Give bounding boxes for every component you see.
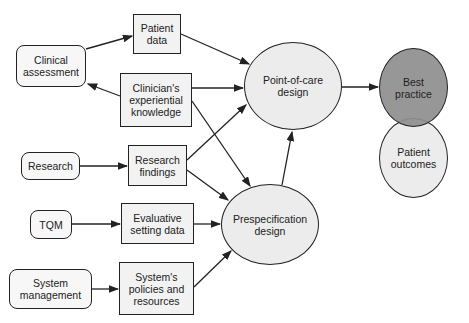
- edge-prespec-to-poc: [282, 132, 292, 185]
- patient-data-node: Patient data: [133, 14, 181, 54]
- best-practice-node: Best practice: [379, 48, 448, 127]
- point-of-care-design-node: Point-of-care design: [244, 42, 342, 130]
- tqm-node: TQM: [30, 210, 72, 239]
- edge-knowledge-to-prespec: [192, 101, 250, 186]
- edge-patient-data-to-poc: [181, 34, 249, 64]
- evaluative-data-node: Evaluative setting data: [121, 203, 194, 244]
- edge-findings-to-prespec: [187, 170, 228, 200]
- diagram-canvas: Clinical assessment Research TQM System …: [0, 0, 469, 323]
- prespecification-design-node: Prespecification design: [221, 184, 319, 265]
- clinical-assessment-node: Clinical assessment: [16, 45, 86, 87]
- edge-knowledge-to-clinical: [88, 84, 120, 96]
- patient-outcomes-node: Patient outcomes: [379, 118, 448, 198]
- edge-findings-to-poc: [187, 105, 246, 160]
- research-findings-node: Research findings: [128, 145, 187, 186]
- system-management-node: System management: [9, 269, 92, 309]
- edge-clinical-to-patient-data: [86, 36, 132, 49]
- clinicians-knowledge-node: Clinician's experiential knowledge: [120, 73, 192, 127]
- systems-policies-node: System's policies and resources: [119, 262, 194, 315]
- research-node: Research: [21, 152, 80, 180]
- edge-policies-to-prespec: [194, 251, 231, 287]
